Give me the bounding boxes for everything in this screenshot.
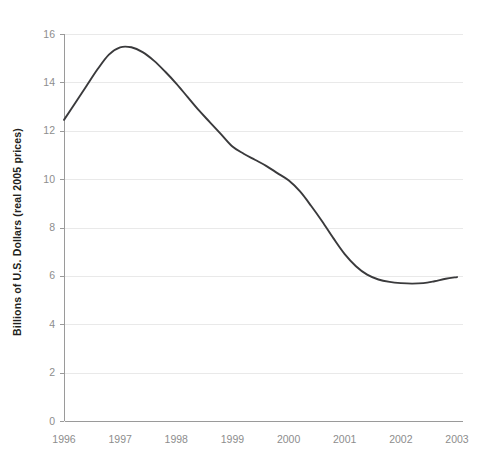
x-tick-label: 2002 — [389, 433, 413, 445]
x-tick-label: 2000 — [277, 433, 301, 445]
y-tick-label: 10 — [43, 173, 55, 185]
y-axis-tick-labels: 0246810121416 — [43, 28, 55, 427]
y-tick-label: 0 — [49, 415, 55, 427]
x-tick-label: 2003 — [445, 433, 469, 445]
axis-lines — [60, 34, 463, 422]
y-tick-label: 8 — [49, 221, 55, 233]
y-tick-label: 14 — [43, 76, 55, 88]
x-tick-label: 1997 — [108, 433, 132, 445]
x-tick-label: 1999 — [221, 433, 245, 445]
x-tick-label: 2001 — [333, 433, 357, 445]
y-tick-label: 4 — [49, 318, 55, 330]
y-tick-label: 6 — [49, 269, 55, 281]
x-tick-label: 1998 — [165, 433, 189, 445]
x-tick-label: 1996 — [52, 433, 76, 445]
y-tick-label: 16 — [43, 28, 55, 40]
chart-plot-area: 0246810121416 19961997199819992000200120… — [0, 0, 477, 463]
y-tick-label: 2 — [49, 366, 55, 378]
y-tick-label: 12 — [43, 124, 55, 136]
line-chart: Billions of U.S. Dollars (real 2005 pric… — [0, 0, 477, 463]
gridlines — [64, 35, 463, 422]
x-axis-tick-labels: 19961997199819992000200120022003 — [52, 433, 469, 445]
